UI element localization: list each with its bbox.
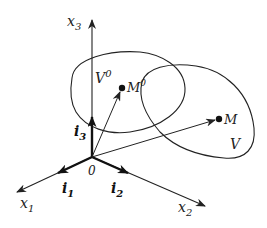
- region-v0-label: V0: [95, 68, 112, 86]
- region-v-label: V: [230, 136, 242, 152]
- point-m: [216, 116, 222, 122]
- x3-axis-label: x3: [67, 13, 81, 32]
- point-m0-label: M0: [126, 78, 146, 95]
- coordinate-diagram: x3 x1 x2 i3 i1 i2 0 V0 V M0 M: [0, 0, 267, 228]
- i2-label: i2: [111, 180, 123, 199]
- point-m-label: M: [223, 112, 238, 127]
- i1-vector: [58, 157, 92, 173]
- point-m0: [119, 85, 125, 91]
- i2-vector: [92, 157, 128, 173]
- i1-label: i1: [62, 180, 74, 199]
- origin-label: 0: [88, 164, 96, 178]
- vector-to-m0: [92, 92, 120, 157]
- i3-label: i3: [74, 123, 86, 142]
- x1-axis-label: x1: [20, 195, 34, 214]
- x2-axis-label: x2: [178, 199, 192, 218]
